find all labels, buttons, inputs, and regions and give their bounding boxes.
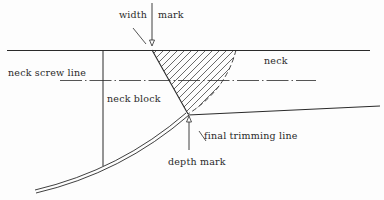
width-label: width: [119, 10, 147, 20]
body-curve-inner: [36, 115, 189, 193]
width-mark-arrowhead-icon: [150, 40, 155, 46]
body-curve-outer: [35, 113, 186, 190]
neck-block-diagram: width mark neck neck screw line neck blo…: [0, 0, 384, 200]
diagram-drawing: [0, 0, 384, 200]
width-mark-leader: [133, 28, 146, 44]
neck-heel-line: [188, 106, 380, 115]
depth-mark-label: depth mark: [168, 157, 226, 167]
final-trimming-line-label: final trimming line: [204, 131, 298, 141]
neck-block-label: neck block: [107, 94, 161, 104]
neck-screw-line-label: neck screw line: [8, 68, 86, 78]
mark-label: mark: [158, 10, 184, 20]
neck-label: neck: [264, 56, 288, 66]
hatched-trim-region: [87, 40, 265, 120]
